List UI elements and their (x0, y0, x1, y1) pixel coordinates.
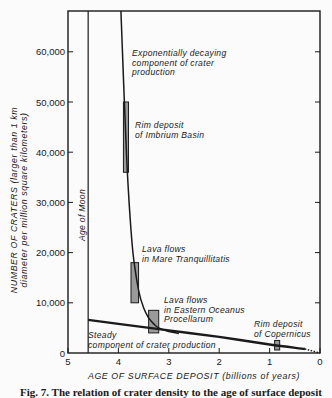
figure-caption: Fig. 7. The relation of crater density t… (20, 386, 322, 398)
x-tick-label: 4 (116, 356, 121, 367)
y-tick-label: 60,000 (36, 46, 65, 57)
procellarum-label: Procellarum (164, 314, 213, 324)
y-tick-label: 30,000 (36, 197, 65, 208)
y-tick-label: 40,000 (36, 147, 65, 158)
steady-label: Steady (88, 330, 117, 340)
x-axis-title: AGE OF SURFACE DEPOSIT (billions of year… (87, 371, 300, 381)
copernicus-label: of Copernicus (254, 329, 311, 339)
x-tick-label: 1 (267, 356, 272, 367)
age-of-moon-label: Age of Moon (77, 189, 87, 242)
y-tick-label: 10,000 (36, 297, 65, 308)
exponential-label: component of crater (132, 58, 215, 68)
y-axis-title-line1: NUMBER OF CRATERS (larger than 1 km (9, 107, 19, 293)
steady-label: component of crater production (88, 340, 216, 350)
x-tick-label: 5 (65, 356, 70, 367)
x-tick-label: 3 (166, 356, 171, 367)
imbrium-label: of Imbrium Basin (135, 130, 204, 140)
y-axis-title: NUMBER OF CRATERS (larger than 1 km diam… (9, 107, 29, 293)
exponential-label: Exponentially decaying (132, 48, 227, 58)
x-tick-label: 2 (217, 356, 222, 367)
tranquillitatis-label: Lava flows (142, 244, 186, 254)
exponential-label: production (131, 67, 175, 77)
annotations: Exponentially decayingcomponent of crate… (88, 48, 311, 350)
tranquillitatis-label: in Mare Tranquillitatis (142, 254, 230, 264)
procellarum-label: Lava flows (164, 295, 208, 305)
x-tick-label: 0 (317, 356, 322, 367)
y-axis-title-line2: diameter per million square kilometers) (19, 113, 29, 288)
x-axis-ticks: 543210 (65, 348, 322, 367)
procellarum-label: in Eastern Oceanus (164, 305, 245, 315)
imbrium-label: Rim deposit (135, 120, 184, 130)
y-tick-label: 50,000 (36, 97, 65, 108)
y-tick-label: 0 (60, 348, 65, 359)
y-tick-label: 20,000 (36, 247, 65, 258)
copernicus-label: Rim deposit (254, 319, 303, 329)
reference-lines: Age of Moon (77, 11, 88, 353)
